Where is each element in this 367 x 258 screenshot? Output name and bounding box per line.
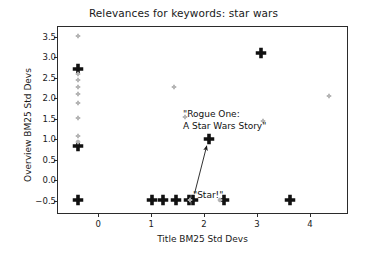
data-point-background — [75, 100, 80, 105]
rogue-one-annotation: "Rogue One: A Star Wars Story" — [183, 109, 266, 132]
y-tick-label: 3.5 — [42, 32, 56, 42]
chart-screenshot: Relevances for keywords: star wars 01234… — [0, 0, 367, 258]
data-point-background — [172, 84, 177, 89]
y-tick-label: 2.5 — [42, 73, 56, 83]
data-point-highlighted — [157, 194, 168, 205]
x-tick-label: 0 — [96, 219, 101, 229]
x-tick-label: 4 — [307, 219, 312, 229]
data-point-background — [75, 92, 80, 97]
data-point-highlighted — [255, 47, 266, 58]
y-tick-label: 1.0 — [42, 134, 56, 144]
y-tick-label: 1.5 — [42, 114, 56, 124]
x-tick-mark — [98, 214, 99, 217]
x-tick-label: 2 — [201, 219, 206, 229]
matplotlib-figure: Relevances for keywords: star wars 01234… — [0, 0, 367, 258]
star-annotation: "Star!" — [193, 190, 223, 202]
y-tick-label: 0.5 — [42, 155, 56, 165]
data-point-background — [75, 134, 80, 139]
y-tick-label: 0.0 — [42, 175, 56, 185]
y-tick-label: 2.0 — [42, 93, 56, 103]
data-point-background — [75, 77, 80, 82]
data-point-highlighted — [284, 194, 295, 205]
data-point-background — [327, 93, 332, 98]
chart-title: Relevances for keywords: star wars — [0, 7, 367, 19]
data-point-background — [75, 71, 80, 76]
data-point-highlighted — [170, 194, 181, 205]
x-tick-mark — [204, 214, 205, 217]
data-point-highlighted — [72, 194, 83, 205]
data-point-background — [75, 140, 80, 145]
y-tick-label: 3.0 — [42, 52, 56, 62]
data-point-highlighted — [204, 134, 215, 145]
x-tick-mark — [310, 214, 311, 217]
x-tick-label: 1 — [148, 219, 153, 229]
x-axis-label: Title BM25 Std Devs — [57, 234, 348, 244]
y-axis-label: Overview BM25 Std Devs — [23, 45, 33, 205]
data-point-background — [75, 84, 80, 89]
data-point-background — [75, 33, 80, 38]
x-tick-mark — [257, 214, 258, 217]
x-tick-mark — [151, 214, 152, 217]
x-tick-label: 3 — [254, 219, 259, 229]
data-point-background — [75, 115, 80, 120]
y-tick-label: −0.5 — [35, 196, 56, 206]
data-point-highlighted — [147, 194, 158, 205]
